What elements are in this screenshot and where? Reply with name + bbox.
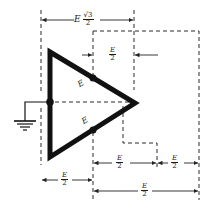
frac-den: 2 <box>86 20 90 27</box>
label-top-dimension: E √3 2 <box>74 12 94 27</box>
ground-icon <box>14 102 50 130</box>
frac-den: 2 <box>172 163 176 170</box>
node-lower <box>90 127 97 134</box>
frac-den: 2 <box>62 180 66 187</box>
label-top-fraction: √3 2 <box>83 12 94 27</box>
label-inner-top: E 2 <box>109 47 116 62</box>
frac-den: 2 <box>117 163 121 170</box>
label-top-var: E <box>74 15 81 24</box>
node-upper <box>90 75 97 82</box>
label-bottom-long: E 2 <box>141 183 148 198</box>
frac-den: 2 <box>142 191 146 198</box>
delta-triangle <box>46 52 135 157</box>
label-bottom-mid: E 2 <box>116 155 123 170</box>
frac-den: 2 <box>110 55 114 62</box>
delta-diagram <box>0 0 212 210</box>
label-bottom-right: E 2 <box>171 155 178 170</box>
label-bottom-left: E 2 <box>61 172 68 187</box>
